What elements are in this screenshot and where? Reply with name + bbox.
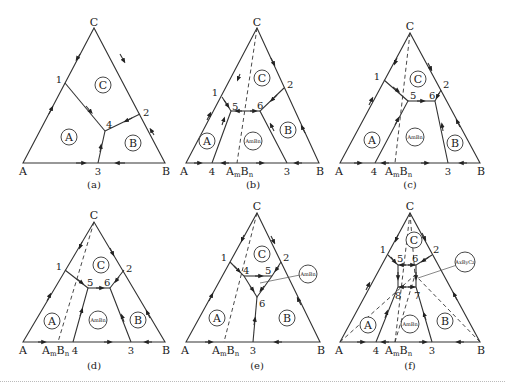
point-label-1: 1: [374, 71, 380, 82]
compound-label-ambn: AmBn: [384, 344, 413, 358]
point-label-1: 1: [212, 87, 218, 98]
arrow-icon: [395, 119, 398, 125]
arrow-icon: [272, 95, 277, 100]
point-label-2: 2: [126, 263, 132, 274]
arrow-icon: [120, 54, 124, 61]
point-label-3: 3: [429, 345, 435, 356]
field-label-ambn: AmBn: [244, 138, 261, 144]
svg-text:AmBn: AmBn: [41, 344, 70, 358]
field-label-a: A: [202, 135, 212, 148]
vertex-label-c: C: [406, 20, 414, 33]
point-label-4: 4: [373, 345, 379, 356]
field-label-a: A: [367, 134, 377, 147]
field-label-a: A: [212, 312, 222, 325]
arrow-icon: [238, 74, 240, 79]
point-label-4: 4: [209, 166, 215, 177]
boundary-2-6-3: [110, 270, 131, 342]
panel-caption-c: (c): [403, 179, 417, 190]
field-label-a: A: [64, 131, 74, 144]
field-label-c: C: [258, 72, 266, 85]
callout-label-axbycz: AxByCz: [454, 259, 475, 266]
callout-label-ambn: AmBn: [299, 271, 316, 277]
compound-label-ambn: AmBn: [211, 344, 240, 358]
footer-divider: [0, 381, 505, 382]
vertex-label-a: A: [18, 344, 28, 357]
vertex-label-c: C: [406, 200, 414, 213]
arrow-icon: [77, 279, 82, 283]
compound-label-ambn: AmBn: [225, 165, 254, 179]
arrow-icon: [271, 58, 274, 64]
arrow-icon: [271, 236, 274, 242]
point-label-6: 6: [429, 90, 435, 101]
point-label-4: 4: [371, 166, 377, 177]
vertex-label-c: C: [253, 16, 261, 29]
join-line-b-axbycz: [415, 275, 480, 342]
svg-text:AmBn: AmBn: [384, 344, 413, 358]
panel-b: A C B AmBn C A B 1 2 3 4 5 6 AmBn (b): [179, 16, 324, 190]
join-line-c-ambn: [395, 33, 410, 163]
vertex-label-b: B: [162, 165, 170, 178]
callout-leader-line: [418, 265, 457, 278]
field-label-c: C: [410, 234, 418, 247]
boundary-1-5-4: [212, 97, 231, 163]
arrow-icon: [423, 257, 429, 261]
point-label-4: 4: [72, 345, 78, 356]
arrow-icon: [126, 118, 132, 121]
panel-caption-f: (f): [404, 360, 416, 371]
vertex-label-b: B: [477, 344, 485, 357]
arrow-icon: [442, 125, 443, 131]
vertex-label-a: A: [18, 165, 28, 178]
point-label-2: 2: [143, 107, 149, 118]
vertex-label-c: C: [253, 200, 261, 213]
svg-text:AmBn: AmBn: [211, 344, 240, 358]
svg-text:AmBn: AmBn: [225, 165, 254, 179]
field-label-b: B: [129, 137, 137, 150]
point-label-3: 3: [128, 345, 134, 356]
point-label-5: 5: [232, 101, 238, 112]
panel-f: A C B AmBn AxByCz C A B 1 2 3 4 5 6 7 8 …: [334, 200, 485, 371]
point-label-5: 5: [410, 90, 416, 101]
panel-caption-e: (e): [250, 360, 264, 371]
panel-d: A C B AmBn C A B 1 2 3 4 5 6 AmBn (d): [18, 209, 170, 371]
field-label-b: B: [283, 312, 291, 325]
vertex-label-c: C: [90, 16, 98, 29]
compound-label-ambn: AmBn: [41, 344, 70, 358]
field-label-a: A: [363, 319, 373, 332]
arrow-icon: [49, 108, 52, 114]
point-label-2: 2: [283, 252, 289, 263]
vertex-label-b: B: [162, 344, 170, 357]
ternary-diagram-figure: A C B C A B 1 2 3 4 (a) A: [0, 0, 505, 392]
panel-a: A C B C A B 1 2 3 4 (a): [18, 16, 170, 190]
point-label-3: 3: [250, 345, 256, 356]
panel-e: A C B AmBn C A B 1 2 3 4 5 6 AmBn (e): [180, 200, 325, 371]
field-label-c: C: [97, 259, 105, 272]
vertex-label-a: A: [334, 344, 344, 357]
arrow-icon: [250, 286, 253, 290]
point-label-3: 3: [284, 166, 290, 177]
vertex-label-b: B: [477, 165, 485, 178]
field-label-c: C: [414, 73, 422, 86]
field-label-b: B: [441, 315, 449, 328]
vertex-label-c: C: [90, 209, 98, 222]
vertex-label-a: A: [180, 344, 190, 357]
field-label-c: C: [258, 248, 266, 261]
arrow-icon: [224, 100, 228, 106]
point-label-2: 2: [443, 79, 449, 90]
point-label-6: 6: [259, 298, 265, 309]
point-label-4: 4: [243, 265, 249, 276]
point-label-1: 1: [56, 74, 62, 85]
point-label-6: 6: [104, 277, 110, 288]
point-label-6: 6: [412, 253, 418, 264]
field-label-b: B: [134, 314, 142, 327]
boundary-3-4: [98, 131, 105, 163]
field-label-ambn: AmBn: [406, 134, 423, 140]
vertex-label-a: A: [334, 165, 344, 178]
vertex-label-b: B: [317, 344, 325, 357]
compound-label-ambn: AmBn: [384, 165, 413, 179]
point-label-5: 5: [87, 277, 93, 288]
panel-caption-d: (d): [87, 360, 101, 371]
point-label-5: 5: [397, 253, 403, 264]
arrow-icon: [302, 127, 305, 133]
point-label-2: 2: [287, 79, 293, 90]
point-label-8: 8: [395, 290, 401, 301]
